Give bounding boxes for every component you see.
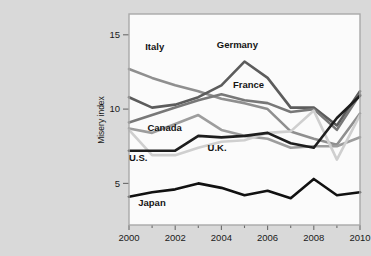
series-label-japan: Japan [138, 197, 166, 208]
series-label-germany: Germany [217, 39, 259, 50]
series-label-canada: Canada [147, 122, 182, 133]
x-axis-tick-labels: 200020022004200620082010 [118, 232, 370, 243]
x-tick-label: 2010 [349, 232, 370, 243]
x-tick-label: 2004 [211, 232, 232, 243]
y-axis-tick-labels: 51015 [109, 29, 120, 189]
series-label-france: France [233, 79, 264, 90]
x-tick-label: 2008 [303, 232, 324, 243]
y-tick-label: 10 [109, 103, 120, 114]
y-axis-title: Misery index [96, 95, 106, 143]
x-tick-label: 2002 [165, 232, 186, 243]
series-label-italy: Italy [145, 41, 165, 52]
misery-index-figure: 200020022004200620082010 51015 Misery in… [0, 0, 371, 256]
x-tick-label: 2006 [257, 232, 278, 243]
x-tick-label: 2000 [118, 232, 139, 243]
series-label-us: U.S. [129, 152, 147, 163]
line-chart: 200020022004200620082010 51015 Misery in… [0, 0, 371, 256]
y-tick-label: 5 [115, 178, 120, 189]
y-tick-label: 15 [109, 29, 120, 40]
series-label-uk: U.K. [208, 142, 227, 153]
